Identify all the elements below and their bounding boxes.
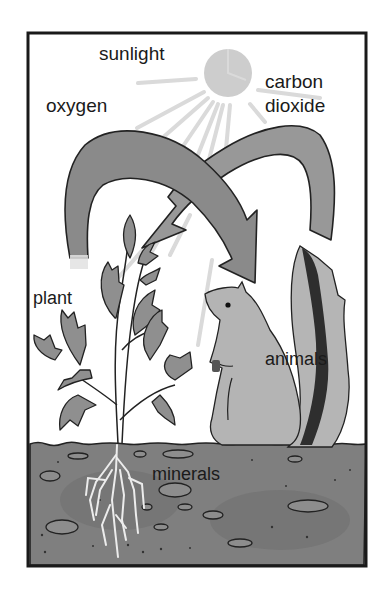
label-minerals: minerals — [152, 464, 220, 484]
squirrel-paw — [212, 360, 220, 372]
label-oxygen: oxygen — [46, 96, 107, 116]
label-sunlight: sunlight — [99, 44, 165, 64]
label-animals: animals — [265, 349, 327, 369]
ecosystem-diagram: sunlight oxygen carbon dioxide plant ani… — [0, 0, 388, 599]
squirrel-eye — [225, 302, 230, 307]
label-carbon-dioxide-line2: dioxide — [265, 96, 325, 116]
label-plant: plant — [33, 288, 72, 308]
label-carbon-dioxide-line1: carbon — [265, 72, 323, 92]
